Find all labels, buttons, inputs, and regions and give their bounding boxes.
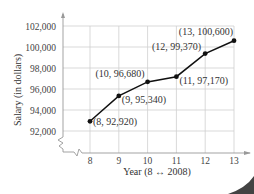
y-tick-label: 98,000 <box>30 64 56 74</box>
data-point-marker <box>88 119 93 124</box>
data-point-labels: (8, 92,920)(9, 95,340)(10, 96,680)(11, 9… <box>93 26 233 129</box>
data-point-label: (13, 100,600) <box>179 26 233 38</box>
data-point-marker <box>203 51 208 56</box>
axis-break-zigzag <box>58 137 250 156</box>
data-point-label: (12, 99,370) <box>152 41 201 53</box>
x-axis-title: Year (8 ↔ 2008) <box>123 166 191 178</box>
page-corner-shadow <box>228 176 254 194</box>
x-tick-label: 8 <box>88 156 93 166</box>
y-tick-labels: 92,00094,00096,00098,000100,000102,000 <box>25 22 56 137</box>
data-point-marker <box>174 74 179 79</box>
data-point-marker <box>232 38 237 43</box>
data-point-marker <box>145 79 150 84</box>
grid-lines <box>63 26 234 153</box>
y-tick-label: 96,000 <box>30 85 56 95</box>
y-axis-arrow-icon <box>61 12 65 18</box>
x-tick-labels: 8910111213 <box>88 156 239 166</box>
y-axis-title: Salary (in dollars) <box>12 54 24 126</box>
x-tick-label: 12 <box>200 156 210 166</box>
data-point-label: (10, 96,680) <box>95 68 144 80</box>
x-axis-arrow-icon <box>244 151 251 155</box>
data-point-marker <box>116 94 121 99</box>
y-tick-label: 92,000 <box>30 127 56 137</box>
x-tick-label: 9 <box>116 156 121 166</box>
data-point-label: (9, 95,340) <box>122 94 166 106</box>
x-tick-label: 11 <box>172 156 181 166</box>
x-tick-label: 13 <box>229 156 239 166</box>
x-tick-label: 10 <box>143 156 153 166</box>
data-point-label: (11, 97,170) <box>179 75 228 87</box>
y-tick-label: 100,000 <box>25 43 56 53</box>
data-point-label: (8, 92,920) <box>93 116 137 128</box>
line-chart: 92,00094,00096,00098,000100,000102,000 8… <box>0 0 254 194</box>
y-tick-label: 94,000 <box>30 106 56 116</box>
y-tick-label: 102,000 <box>25 22 56 32</box>
